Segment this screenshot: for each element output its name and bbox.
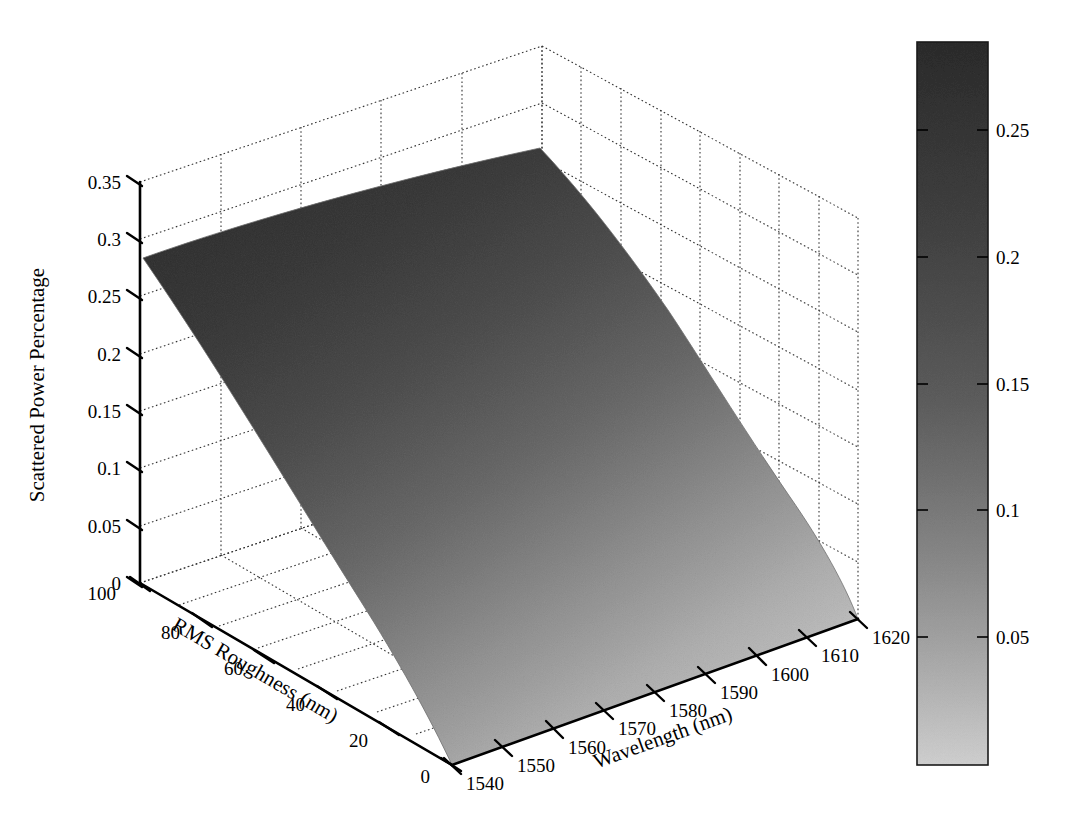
x-axis-title: Wavelength (nm) — [590, 701, 735, 773]
z-tick-label-4: 0.15 — [88, 401, 121, 422]
z-tick-label-1: 0.3 — [97, 229, 121, 250]
z-tick-label-5: 0.1 — [97, 458, 121, 479]
colorbar-label-4: 0.05 — [996, 627, 1029, 648]
x-tick-label-1550: 1550 — [517, 755, 555, 776]
colorbar-label-3: 0.1 — [996, 500, 1020, 521]
colorbar-gradient — [917, 42, 988, 765]
colorbar-label-0: 0.25 — [996, 120, 1029, 141]
x-tick-label-1540: 1540 — [466, 773, 504, 794]
x-tick-label-1600: 1600 — [771, 664, 809, 685]
colorbar-label-1: 0.2 — [996, 247, 1020, 268]
x-tick-label-1620: 1620 — [872, 627, 910, 648]
y-axis-title: RMS Roughness (nm) — [168, 612, 342, 727]
x-tick-label-1590: 1590 — [720, 682, 758, 703]
y-tick-label-20: 20 — [349, 730, 368, 751]
colorbar[interactable]: 0.25 0.2 0.15 0.1 0.05 — [917, 42, 1029, 765]
surface-plot-svg: 0.35 0.3 0.25 0.2 0.15 0.1 0.05 0 Scatte… — [0, 0, 1079, 828]
z-tick-label-6: 0.05 — [88, 516, 121, 537]
z-tick-label-0: 0.35 — [88, 172, 121, 193]
z-axis-title: Scattered Power Percentage — [25, 268, 49, 502]
colorbar-label-2: 0.15 — [996, 374, 1029, 395]
y-tick-label-100: 100 — [88, 583, 117, 604]
y-tick-label-0: 0 — [421, 766, 431, 787]
z-tick-label-3: 0.2 — [97, 344, 121, 365]
figure-canvas: 0.35 0.3 0.25 0.2 0.15 0.1 0.05 0 Scatte… — [0, 0, 1079, 828]
z-tick-label-2: 0.25 — [88, 286, 121, 307]
z-axis: 0.35 0.3 0.25 0.2 0.15 0.1 0.05 0 Scatte… — [25, 172, 142, 594]
x-tick-label-1610: 1610 — [821, 645, 859, 666]
